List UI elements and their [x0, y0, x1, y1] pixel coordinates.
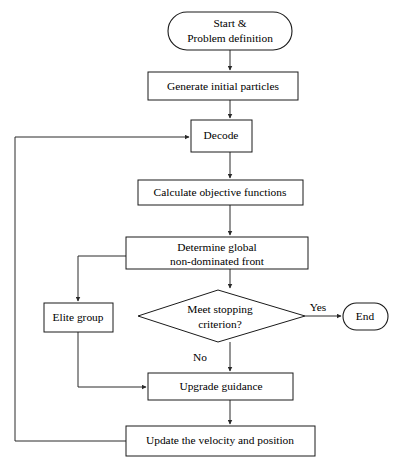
node-generate-initial-particles[interactable]: Generate initial particles: [148, 72, 298, 100]
connector-determine-to-elite: [78, 256, 126, 301]
edge-label-no: No: [193, 351, 207, 363]
node-end-label: End: [356, 310, 375, 322]
node-start-label-line1: Start &: [213, 17, 246, 29]
node-decision-label-line2: criterion?: [198, 318, 242, 330]
node-upgrade-label: Upgrade guidance: [179, 380, 262, 392]
flowchart-diagram: Start & Problem definition Generate init…: [0, 0, 394, 475]
flowchart-canvas: Start & Problem definition Generate init…: [0, 0, 394, 475]
node-calculate-objective-functions[interactable]: Calculate objective functions: [138, 180, 303, 205]
node-calculate-label: Calculate objective functions: [154, 186, 287, 198]
node-determine-label-line1: Determine global: [177, 241, 256, 253]
connector-elite-to-upgrade: [78, 332, 146, 387]
node-update-velocity-position[interactable]: Update the velocity and position: [126, 426, 315, 456]
node-determine-label-line2: non-dominated front: [170, 255, 265, 267]
node-start-label-line2: Problem definition: [187, 32, 273, 44]
node-decode-label: Decode: [204, 129, 239, 141]
node-start[interactable]: Start & Problem definition: [168, 12, 292, 50]
node-decision-shape: [138, 290, 305, 342]
node-end[interactable]: End: [343, 303, 388, 330]
node-generate-label: Generate initial particles: [167, 80, 280, 92]
node-decision-label-line1: Meet stopping: [187, 303, 253, 315]
node-update-label: Update the velocity and position: [146, 434, 294, 446]
edge-label-yes: Yes: [310, 301, 327, 313]
node-elite-group[interactable]: Elite group: [44, 303, 113, 332]
node-elite-label: Elite group: [53, 311, 104, 323]
node-upgrade-guidance[interactable]: Upgrade guidance: [148, 373, 293, 400]
node-determine-global-front[interactable]: Determine global non-dominated front: [126, 237, 308, 269]
node-decode[interactable]: Decode: [191, 120, 252, 152]
node-decision-meet-stopping-criterion[interactable]: Meet stopping criterion?: [138, 290, 305, 342]
